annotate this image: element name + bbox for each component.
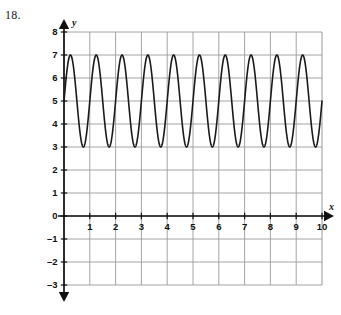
y-axis-tick-label: 2 xyxy=(52,164,57,175)
figure-root: 18. 12345678910876543210–1–2–3 yx xyxy=(0,0,341,315)
x-axis-tick-label: 1 xyxy=(87,221,93,232)
x-axis-tick-label: 10 xyxy=(317,221,328,232)
sinusoid-graph: 12345678910876543210–1–2–3 yx xyxy=(0,0,341,315)
x-axis-tick-label: 7 xyxy=(242,221,247,232)
y-axis-tick-label: 4 xyxy=(52,118,58,129)
tick-labels: 12345678910876543210–1–2–3 xyxy=(47,26,327,290)
y-axis-tick-label: 7 xyxy=(52,49,57,60)
y-axis-tick-label: 3 xyxy=(52,141,57,152)
grid-lines xyxy=(64,32,322,285)
y-axis-arrow-down-icon xyxy=(59,292,69,302)
x-axis-tick-label: 2 xyxy=(113,221,118,232)
y-axis-tick-label: 6 xyxy=(52,72,57,83)
x-axis-tick-label: 4 xyxy=(165,221,171,232)
y-axis-name-label: y xyxy=(71,17,77,28)
y-axis-tick-label: 1 xyxy=(52,187,58,198)
y-axis-tick-label: 0 xyxy=(52,210,57,221)
y-axis-tick-label: –1 xyxy=(47,233,58,244)
x-axis-tick-label: 5 xyxy=(190,221,196,232)
x-axis-tick-label: 9 xyxy=(294,221,299,232)
x-axis-name-label: x xyxy=(328,201,334,212)
y-axis-arrow-icon xyxy=(59,19,69,29)
y-axis-tick-label: 5 xyxy=(52,95,58,106)
x-axis-tick-label: 3 xyxy=(139,221,144,232)
y-axis-tick-label: –2 xyxy=(47,256,58,267)
axis-lines xyxy=(58,19,334,302)
x-axis-tick-label: 8 xyxy=(268,221,273,232)
y-axis-tick-label: 8 xyxy=(52,26,57,37)
x-axis-tick-label: 6 xyxy=(216,221,221,232)
y-axis-tick-label: –3 xyxy=(47,279,58,290)
